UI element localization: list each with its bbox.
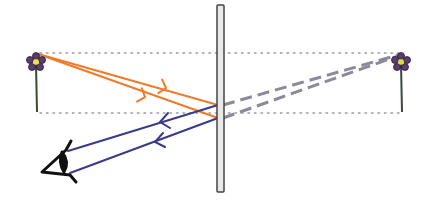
virtual-ray-2 [223,56,398,118]
incident-ray-2 [38,54,218,118]
flower-center [398,59,404,65]
reflected-rays [68,105,218,173]
mirror-reflection-diagram [0,0,435,207]
image-flower-icon [392,53,411,113]
arrow-head-icon [158,80,168,95]
eye-icon [42,141,76,182]
incident-ray-1 [38,54,218,105]
reflected-ray-2 [70,118,218,173]
stem [36,64,37,112]
flower-center [33,59,39,65]
stem [401,64,402,112]
plane-mirror [217,5,224,192]
incident-rays [38,54,218,118]
virtual-rays [223,55,398,118]
reflected-ray-1 [68,105,218,151]
object-flower-icon [27,53,46,113]
virtual-ray-1 [223,55,398,105]
